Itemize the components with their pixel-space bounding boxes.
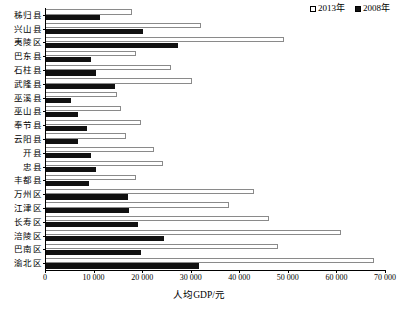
bar-2008 <box>46 29 143 34</box>
bar-2013 <box>46 106 121 111</box>
category-label: 万州区 <box>14 190 42 199</box>
category-label: 渝北区 <box>14 259 42 268</box>
bar-group <box>46 160 386 174</box>
bar-group <box>46 256 386 270</box>
bar-2013 <box>46 189 254 194</box>
category-label: 奉节县 <box>14 121 42 130</box>
bar-2008 <box>46 112 78 117</box>
bar-group <box>46 173 386 187</box>
category-label: 江津区 <box>14 204 42 213</box>
bar-group <box>46 201 386 215</box>
bar-group <box>46 49 386 63</box>
bar-2013 <box>46 51 136 56</box>
bar-2013 <box>46 37 284 42</box>
category-label: 涪陵区 <box>14 231 42 240</box>
category-label: 忠县 <box>23 162 42 171</box>
bar-group <box>46 146 386 160</box>
bar-2013 <box>46 216 269 221</box>
category-label: 巴南区 <box>14 245 42 254</box>
bar-2013 <box>46 120 141 125</box>
bar-2008 <box>46 70 96 75</box>
bar-2008 <box>46 126 87 131</box>
bar-2013 <box>46 133 126 138</box>
bar-2008 <box>46 43 178 48</box>
category-label: 武隆县 <box>14 80 42 89</box>
bar-group <box>46 77 386 91</box>
category-label: 巫溪县 <box>14 93 42 102</box>
bar-2008 <box>46 15 100 20</box>
bar-2008 <box>46 84 115 89</box>
category-label: 云阳县 <box>14 135 42 144</box>
value-tick-label: 10 000 <box>83 274 105 282</box>
bar-2008 <box>46 222 138 227</box>
value-tick-label: 50 000 <box>277 274 299 282</box>
category-axis: 秭归县兴山县夷陵区巴东县石柱县武隆县巫溪县巫山县奉节县云阳县开县忠县丰都县万州区… <box>0 8 45 270</box>
bar-2013 <box>46 23 201 28</box>
bar-2008 <box>46 98 71 103</box>
bar-2013 <box>46 175 136 180</box>
bar-2008 <box>46 236 164 241</box>
bar-group <box>46 118 386 132</box>
bar-2008 <box>46 167 96 172</box>
bar-group <box>46 105 386 119</box>
bar-2013 <box>46 202 229 207</box>
bar-2013 <box>46 147 154 152</box>
bar-2013 <box>46 78 192 83</box>
bar-2013 <box>46 92 117 97</box>
category-label: 巫山县 <box>14 107 42 116</box>
x-axis-label: 人均GDP/元 <box>0 291 398 301</box>
category-label: 丰都县 <box>14 176 42 185</box>
bar-chart: 2013年 2008年 秭归县兴山县夷陵区巴东县石柱县武隆县巫溪县巫山县奉节县云… <box>0 0 398 311</box>
bar-group <box>46 91 386 105</box>
plot-area: 秭归县兴山县夷陵区巴东县石柱县武隆县巫溪县巫山县奉节县云阳县开县忠县丰都县万州区… <box>0 8 398 270</box>
bar-group <box>46 8 386 22</box>
value-tick-label: 30 000 <box>180 274 202 282</box>
bar-2013 <box>46 65 171 70</box>
category-label: 秭归县 <box>14 11 42 20</box>
bar-2013 <box>46 244 278 249</box>
value-tick-label: 70 000 <box>374 274 396 282</box>
bar-2008 <box>46 250 141 255</box>
bar-group <box>46 242 386 256</box>
bar-group <box>46 229 386 243</box>
bar-group <box>46 132 386 146</box>
bar-2008 <box>46 139 78 144</box>
category-label: 开县 <box>23 149 42 158</box>
category-label: 巴东县 <box>14 52 42 61</box>
bar-2008 <box>46 181 89 186</box>
value-tick-label: 60 000 <box>325 274 347 282</box>
value-axis: 010 00020 00030 00040 00050 00060 00070 … <box>45 270 385 284</box>
bar-2013 <box>46 230 341 235</box>
bar-2008 <box>46 194 128 199</box>
bar-2008 <box>46 263 199 268</box>
value-tick-label: 40 000 <box>228 274 250 282</box>
bar-group <box>46 187 386 201</box>
bar-group <box>46 36 386 50</box>
bar-group <box>46 215 386 229</box>
bar-2008 <box>46 57 91 62</box>
bar-group <box>46 63 386 77</box>
bar-2008 <box>46 208 129 213</box>
bar-group <box>46 22 386 36</box>
category-label: 兴山县 <box>14 24 42 33</box>
category-label: 石柱县 <box>14 66 42 75</box>
value-axis-line <box>45 270 385 271</box>
category-label: 长寿区 <box>14 217 42 226</box>
bar-2013 <box>46 258 374 263</box>
bar-2013 <box>46 9 132 14</box>
value-tick-label: 0 <box>43 274 47 282</box>
bars-container <box>45 8 386 270</box>
category-label: 夷陵区 <box>14 38 42 47</box>
bar-2013 <box>46 161 163 166</box>
value-tick-label: 20 000 <box>131 274 153 282</box>
bar-2008 <box>46 153 91 158</box>
